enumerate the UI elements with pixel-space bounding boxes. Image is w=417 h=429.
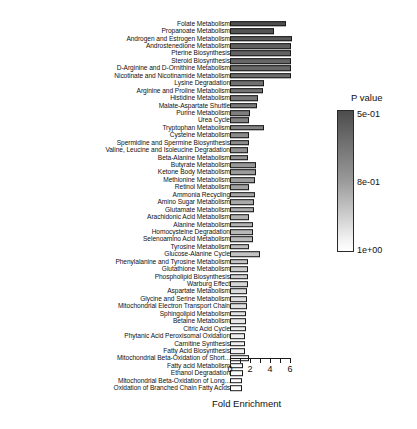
bar	[230, 378, 242, 384]
bar-track	[230, 66, 291, 72]
colorbar-label: 5e-01	[357, 110, 380, 119]
bar-track	[230, 281, 248, 287]
bar	[230, 259, 248, 265]
bar-track	[230, 333, 245, 339]
bar-track	[230, 88, 263, 94]
bar	[230, 385, 242, 391]
pvalue-colorbar	[337, 110, 354, 252]
colorbar-label: 8e-01	[357, 178, 380, 187]
bar	[230, 341, 245, 347]
bar	[230, 95, 258, 101]
colorbar-label: 1e+00	[357, 246, 382, 255]
bar	[230, 140, 249, 146]
x-tick-label: 2	[247, 365, 252, 374]
bar	[230, 318, 246, 324]
bar-track	[230, 170, 256, 176]
bar-track	[230, 132, 249, 138]
bar	[230, 43, 291, 49]
x-tick	[260, 358, 261, 363]
bar	[230, 110, 250, 116]
bar-track	[230, 259, 248, 265]
x-tick	[240, 358, 241, 363]
bar	[230, 296, 247, 302]
bar-track	[230, 378, 242, 384]
bar-track	[230, 237, 253, 243]
legend-title: P value	[351, 92, 383, 103]
bar	[230, 170, 256, 176]
bar-track	[230, 118, 249, 124]
bar	[230, 289, 247, 295]
bar	[230, 155, 248, 161]
bar	[230, 333, 245, 339]
bar	[230, 311, 246, 317]
x-tick	[290, 358, 291, 363]
bar	[230, 199, 254, 205]
x-axis-title: Fold Enrichment	[212, 398, 272, 409]
bar	[230, 274, 248, 280]
bar-track	[230, 251, 260, 257]
bar-track	[230, 296, 247, 302]
bar-track	[230, 43, 291, 49]
bar-track	[230, 103, 257, 109]
bar-row: Oxidation of Branched Chain Fatty Acids	[0, 384, 417, 391]
bar-track	[230, 348, 245, 354]
bar-track	[230, 266, 248, 272]
bar	[230, 125, 264, 131]
bar-track	[230, 214, 249, 220]
bar	[230, 147, 248, 153]
bar	[230, 244, 249, 250]
pathway-label: Oxidation of Branched Chain Fatty Acids	[114, 385, 230, 392]
bar-track	[230, 73, 291, 79]
bar-track	[230, 140, 249, 146]
bar	[230, 192, 255, 198]
x-tick-label: 0	[227, 365, 232, 374]
bar	[230, 28, 274, 34]
bar-rows-container: Folate MetabolismPropanoate MetabolismAn…	[0, 20, 417, 392]
bar	[230, 326, 246, 332]
bar-track	[230, 36, 292, 42]
bar	[230, 80, 264, 86]
bar	[230, 58, 291, 64]
bar	[230, 348, 245, 354]
bar	[230, 214, 249, 220]
bar	[230, 21, 286, 27]
bar-track	[230, 222, 253, 228]
bar	[230, 185, 249, 191]
bar-track	[230, 155, 248, 161]
bar-track	[230, 125, 264, 131]
bar-track	[230, 304, 247, 310]
bar-track	[230, 289, 247, 295]
bar-track	[230, 199, 254, 205]
bar	[230, 51, 291, 57]
bar	[230, 281, 248, 287]
bar-track	[230, 207, 254, 213]
bar	[230, 66, 291, 72]
bar	[230, 222, 253, 228]
x-tick	[250, 358, 251, 363]
x-tick-label: 6	[287, 365, 292, 374]
bar	[230, 251, 260, 257]
bar	[230, 304, 247, 310]
x-tick-label: 4	[267, 365, 272, 374]
bar-track	[230, 21, 286, 27]
bar	[230, 177, 255, 183]
bar	[230, 73, 291, 79]
bar-track	[230, 80, 264, 86]
x-tick	[280, 358, 281, 363]
bar	[230, 266, 248, 272]
bar-track	[230, 341, 245, 347]
bar-track	[230, 385, 242, 391]
bar	[230, 207, 254, 213]
bar	[230, 103, 257, 109]
bar-track	[230, 147, 248, 153]
bar-track	[230, 51, 291, 57]
bar-track	[230, 185, 249, 191]
bar-track	[230, 28, 274, 34]
bar-track	[230, 95, 258, 101]
bar	[230, 162, 256, 168]
bar-track	[230, 110, 250, 116]
bar	[230, 36, 292, 42]
bar-track	[230, 318, 246, 324]
bar	[230, 88, 263, 94]
bar-track	[230, 192, 255, 198]
